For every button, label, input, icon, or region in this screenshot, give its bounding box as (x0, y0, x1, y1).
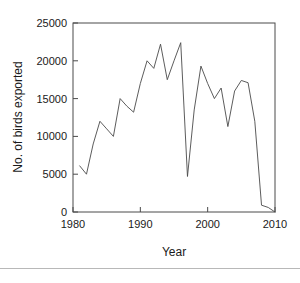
line-chart-canvas: 0500010000150002000025000 19801990200020… (0, 0, 300, 283)
plot-frame (73, 23, 275, 212)
x-tick-label: 1980 (61, 218, 85, 230)
x-axis-title: Year (162, 245, 186, 259)
chart-figure: 0500010000150002000025000 19801990200020… (0, 0, 300, 283)
page-edge-rule (0, 268, 300, 269)
x-tick-label: 2000 (195, 218, 219, 230)
y-tick-label: 10000 (36, 130, 67, 142)
y-tick-label: 15000 (36, 93, 67, 105)
y-axis-ticks: 0500010000150002000025000 (36, 17, 78, 218)
x-tick-label: 2010 (263, 218, 287, 230)
x-tick-label: 1990 (128, 218, 152, 230)
y-tick-label: 20000 (36, 55, 67, 67)
y-tick-label: 25000 (36, 17, 67, 29)
data-series-group (80, 43, 275, 212)
y-tick-label: 5000 (43, 168, 67, 180)
series-line-birds-exported (80, 43, 275, 212)
y-tick-label: 0 (61, 206, 67, 218)
y-axis-title: No. of birds exported (11, 61, 25, 172)
plot-border (73, 23, 275, 212)
x-axis-ticks: 1980199020002010 (61, 207, 287, 230)
